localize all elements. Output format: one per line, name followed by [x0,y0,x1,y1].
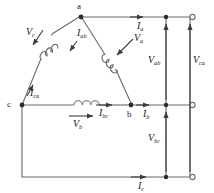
node-a-dot [79,15,84,20]
branch-ab-lower [116,70,131,103]
label-Va: Va [134,33,143,43]
label-Ia: Ia [137,21,143,31]
branch-ca-upper [52,17,79,34]
junction-dots [20,15,169,180]
coil-cb-icon [72,101,99,105]
node-label-b: b [127,110,132,119]
label-Vca: Vca [193,55,205,65]
open-terminals [190,14,195,179]
line-voltage-arrows [166,24,190,172]
junction-top-dot [164,15,168,19]
circuit-diagram: a b c Vc Va Vb Iab Ibc Ica Ia Ib Ic Vab … [0,0,214,193]
junction-bottom-dot [164,175,168,179]
terminal-middle-icon [190,102,195,107]
terminal-top-icon [190,14,195,19]
label-Vab: Vab [148,55,160,65]
label-Vc: Vc [26,27,35,37]
arrow-Iab [70,41,77,51]
label-Ica: Ica [30,88,39,98]
label-Ic: Ic [138,181,144,191]
node-c-dot [20,103,25,108]
label-Ibc: Ibc [99,108,108,118]
arrow-Va [117,39,133,55]
node-label-a: a [77,2,81,11]
label-Vb: Vb [73,119,82,129]
node-b-dot [129,103,134,108]
label-Iab: Iab [77,28,87,38]
coil-ca-icon [40,34,58,61]
node-label-c: c [7,100,11,109]
label-Ib: Ib [143,109,149,119]
coil-ab-icon [102,53,117,73]
terminal-bottom-icon [190,174,195,179]
line-conductors [22,17,190,177]
junction-middle-dot [164,103,168,107]
label-Vbc: Vbc [148,133,160,143]
